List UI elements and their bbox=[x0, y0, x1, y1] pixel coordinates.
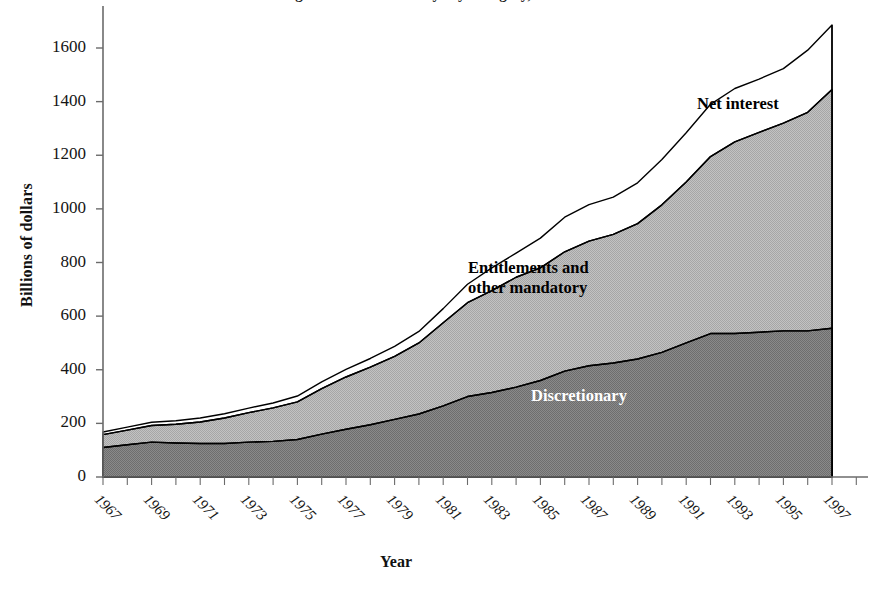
y-tick-label-1000: 1000 bbox=[26, 198, 86, 218]
chart-figure: Figure 1. Federal Outlays by Category, 1… bbox=[0, 0, 882, 590]
series-label-entitlements: Entitlements and other mandatory bbox=[468, 258, 589, 298]
y-tick-label-400: 400 bbox=[26, 359, 86, 379]
figure-title-cutoff: Figure 1. Federal Outlays by Category, 1… bbox=[0, 0, 882, 6]
y-tick-label-200: 200 bbox=[26, 412, 86, 432]
series-label-discretionary: Discretionary bbox=[531, 386, 627, 406]
y-tick-label-1400: 1400 bbox=[26, 91, 86, 111]
series-label-net-interest: Net interest bbox=[697, 94, 779, 114]
y-tick-label-1600: 1600 bbox=[26, 37, 86, 57]
series-label-entitlements-line1: Entitlements and bbox=[468, 258, 589, 278]
y-tick-label-1200: 1200 bbox=[26, 144, 86, 164]
area-series-group bbox=[103, 25, 832, 477]
y-tick-label-800: 800 bbox=[26, 252, 86, 272]
x-axis-title: Year bbox=[380, 553, 412, 571]
series-label-entitlements-line2: other mandatory bbox=[468, 278, 589, 298]
y-tick-label-600: 600 bbox=[26, 305, 86, 325]
y-tick-label-0: 0 bbox=[26, 466, 86, 486]
